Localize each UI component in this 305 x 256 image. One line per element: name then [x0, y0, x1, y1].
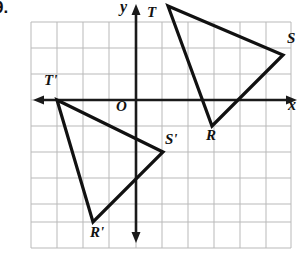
- x-axis-label: x: [288, 96, 296, 114]
- grid-lines: [31, 22, 291, 248]
- vertex-label-S: S: [287, 30, 295, 47]
- x-axis: [33, 96, 297, 105]
- vertex-label-R: R: [206, 127, 216, 144]
- figure-canvas: [0, 0, 305, 256]
- vertex-label-R-prime: R': [90, 224, 104, 241]
- origin-label: O: [116, 98, 127, 115]
- vertex-label-T-prime: T': [44, 72, 57, 89]
- coordinate-plane-figure: 9.: [0, 0, 305, 256]
- y-axis-label: y: [120, 0, 127, 16]
- vertex-label-S-prime: S': [165, 131, 178, 148]
- vertex-label-T: T: [147, 4, 156, 21]
- y-axis: [132, 4, 141, 243]
